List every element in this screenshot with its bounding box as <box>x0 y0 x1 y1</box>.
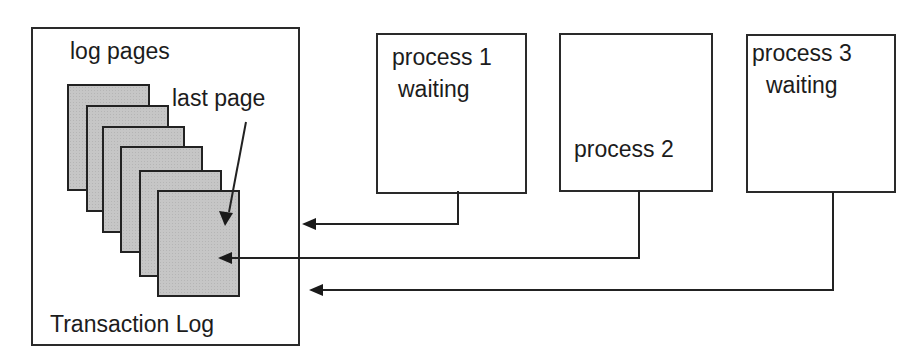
arrowhead-process-3 <box>309 284 323 296</box>
process-3-name: process 3 <box>752 42 852 65</box>
process-2-box <box>559 33 713 192</box>
process-1-status: waiting <box>398 78 470 101</box>
arrow-process-1 <box>315 191 458 224</box>
arrowhead-process-1 <box>302 218 316 230</box>
arrow-process-3 <box>322 192 833 290</box>
log-page-last <box>157 190 240 297</box>
log-pages-label: log pages <box>70 40 170 63</box>
transaction-log-title: Transaction Log <box>50 313 214 336</box>
process-1-name: process 1 <box>392 46 492 69</box>
last-page-label: last page <box>172 87 265 110</box>
process-3-status: waiting <box>766 74 838 97</box>
process-2-name: process 2 <box>574 138 674 161</box>
